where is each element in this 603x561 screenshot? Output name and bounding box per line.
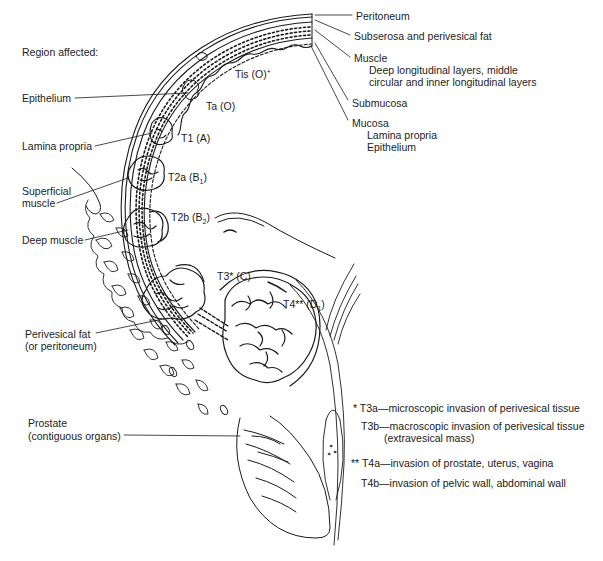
label-mucosa-epithelium: Epithelium [367, 141, 416, 153]
label-peritoneum: Peritoneum [356, 10, 410, 22]
stage-t4: T4** (D1) [283, 298, 325, 310]
label-superficial-muscle-line2: muscle [22, 197, 55, 209]
label-perivesical-fat-line1: Perivesical fat [25, 328, 90, 340]
label-prostate-line2: (contiguous organs) [28, 430, 121, 442]
stage-t3: T3* (C) [217, 270, 251, 282]
label-muscle-desc-line1: Deep longitudinal layers, middle [369, 64, 518, 76]
footnote-t3a: * T3a—microscopic invasion of perivesica… [353, 402, 580, 414]
label-epithelium: Epithelium [22, 92, 71, 104]
leader-lines [57, 15, 352, 436]
stage-ta: Ta (O) [206, 100, 235, 112]
footnote-t3b-line2: (extravesical mass) [384, 432, 474, 444]
footnote-t4a: ** T4a—invasion of prostate, uterus, vag… [351, 457, 553, 469]
label-perivesical-fat-line2: (or peritoneum) [25, 340, 97, 352]
footnote-t3b-line1: T3b—macroscopic invasion of perivesical … [361, 420, 585, 432]
bladder-staging-diagram: Region affected: Epithelium Lamina propr… [0, 0, 603, 561]
stage-t2a: T2a (B1) [168, 171, 207, 183]
label-mucosa-lamina-propria: Lamina propria [367, 129, 437, 141]
stage-tis: Tis (O)+ [235, 68, 271, 80]
label-submucosa: Submucosa [352, 97, 407, 109]
label-muscle: Muscle [354, 52, 387, 64]
label-lamina-propria: Lamina propria [22, 140, 92, 152]
prostate [237, 416, 330, 538]
label-deep-muscle: Deep muscle [22, 234, 83, 246]
tumor-t4 [220, 270, 320, 386]
region-affected-title: Region affected: [22, 46, 98, 58]
footnote-t4b: T4b—invasion of pelvic wall, abdominal w… [361, 477, 566, 489]
tumor-t1 [150, 118, 172, 145]
label-superficial-muscle-line1: Superficial [22, 185, 71, 197]
label-prostate-line1: Prostate [28, 417, 67, 429]
tumor-t2b [123, 208, 168, 247]
stage-t2b: T2b (B2) [171, 211, 210, 223]
label-subserosa: Subserosa and perivesical fat [354, 30, 492, 42]
stage-t1: T1 (A) [181, 132, 210, 144]
label-muscle-desc-line2: circular and inner longitudinal layers [369, 76, 537, 88]
label-mucosa: Mucosa [352, 117, 389, 129]
